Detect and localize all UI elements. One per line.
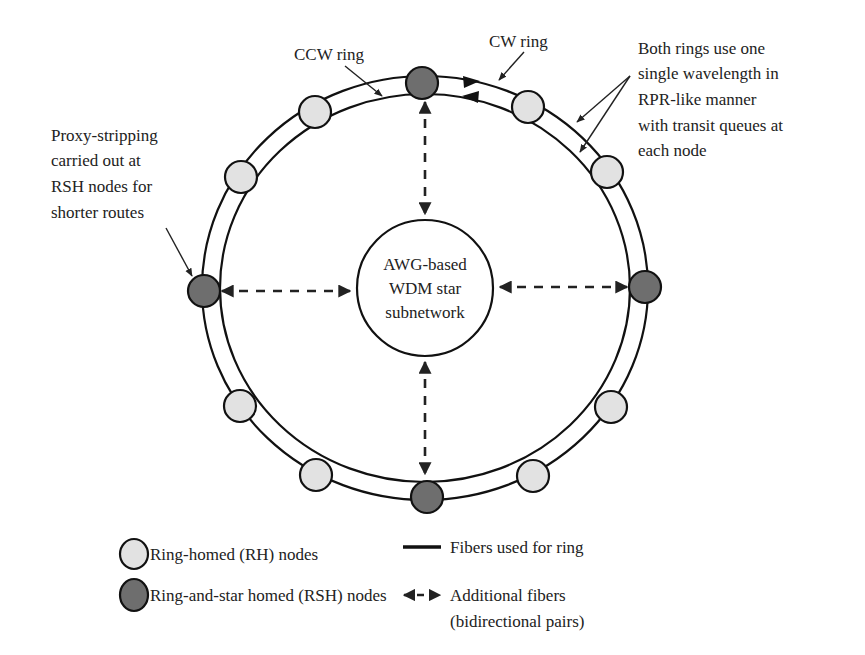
- ccw-ring-label: CCW ring: [294, 45, 365, 64]
- rh-node: [224, 390, 256, 422]
- rings-annotation-line1: Both rings use one: [638, 39, 765, 58]
- center-label-line2: WDM star: [389, 279, 462, 298]
- proxy-annotation-line1: Proxy-stripping: [51, 126, 158, 145]
- rsh-node-bottom: [411, 481, 443, 513]
- center-label-line3: subnetwork: [385, 303, 465, 322]
- rh-node: [225, 161, 257, 193]
- rings-pointer-inner: [580, 76, 630, 152]
- proxy-annotation-line2: carried out at: [51, 151, 141, 170]
- rings-annotation-line2: single wavelength in: [638, 64, 779, 83]
- rings-annotation-line3: RPR-like manner: [638, 90, 757, 109]
- cw-pointer: [499, 52, 524, 80]
- rh-node: [517, 460, 549, 492]
- center-label-line1: AWG-based: [383, 255, 467, 274]
- rings-annotation-line5: each node: [638, 141, 706, 160]
- rh-node: [591, 156, 623, 188]
- ccw-direction-arrow-icon: [462, 91, 479, 103]
- rsh-node-right: [629, 271, 661, 303]
- rh-node: [512, 91, 544, 123]
- cw-ring-label: CW ring: [489, 32, 548, 51]
- rsh-node-top: [406, 67, 438, 99]
- legend-dashed-label-line1: Additional fibers: [450, 586, 566, 605]
- legend-rsh-label: Ring-and-star homed (RSH) nodes: [150, 586, 387, 605]
- proxy-pointer: [166, 228, 192, 276]
- legend-rsh-icon: [120, 579, 148, 611]
- rsh-node-left: [188, 275, 220, 307]
- proxy-annotation-line3: RSH nodes for: [51, 177, 152, 196]
- cw-direction-arrow-icon: [463, 76, 480, 88]
- rh-node: [595, 391, 627, 423]
- rh-node: [300, 459, 332, 491]
- legend-solid-label: Fibers used for ring: [450, 538, 584, 557]
- legend-rh-icon: [120, 539, 148, 569]
- rings-annotation-line4: with transit queues at: [638, 116, 783, 135]
- proxy-annotation-line4: shorter routes: [51, 203, 144, 222]
- legend-rh-label: Ring-homed (RH) nodes: [150, 545, 318, 564]
- ring-star-diagram: AWG-based WDM star subnetwork CCW ring C…: [0, 0, 865, 655]
- rh-node: [299, 96, 331, 128]
- legend-dashed-label-line2: (bidirectional pairs): [450, 612, 585, 631]
